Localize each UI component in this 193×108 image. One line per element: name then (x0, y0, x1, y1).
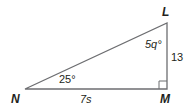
side-label-nm: 7s (80, 93, 92, 105)
vertex-label-n: N (11, 92, 20, 106)
right-angle-marker (159, 81, 167, 89)
angle-label-n: 25° (59, 73, 76, 85)
side-label-lm: 13 (171, 51, 183, 63)
vertex-label-l: L (162, 5, 169, 19)
triangle-diagram: L N M 25° 5q° 7s 13 (0, 0, 193, 108)
vertex-label-m: M (160, 92, 171, 106)
triangle-nml (25, 23, 167, 89)
angle-label-l: 5q° (145, 38, 162, 50)
